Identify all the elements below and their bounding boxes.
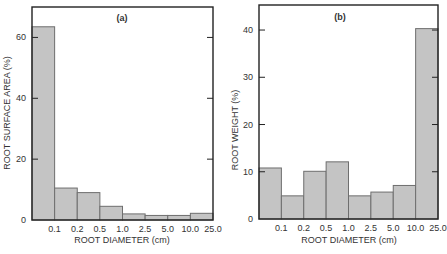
y-tick-label: 20 [243, 120, 253, 130]
x-tick-label: 5.0 [387, 223, 400, 233]
panel-label: (b) [334, 12, 346, 22]
x-tick-label: 2.5 [139, 224, 152, 234]
x-tick-label: 1.0 [342, 223, 355, 233]
bar-series [32, 27, 213, 220]
x-axis-ticks: 0.10.20.51.02.55.010.025.0 [275, 223, 447, 233]
bar [32, 27, 55, 220]
y-tick-label: 40 [243, 25, 253, 35]
x-tick-label: 2.5 [365, 223, 378, 233]
bar [326, 162, 348, 219]
x-tick-label: 0.2 [71, 224, 84, 234]
bar [55, 188, 78, 220]
x-tick-label: 0.2 [297, 223, 310, 233]
x-tick-label: 0.5 [94, 224, 107, 234]
y-tick-label: 60 [16, 32, 26, 42]
y-axis-title: ROOT WEIGHT (%) [230, 90, 240, 171]
bar [281, 196, 303, 219]
x-tick-label: 10.0 [407, 223, 425, 233]
bar [416, 29, 438, 219]
bar [349, 196, 371, 219]
bar [393, 185, 415, 219]
x-axis-ticks: 0.10.20.51.02.55.010.025.0 [48, 224, 221, 234]
x-tick-label: 25.0 [429, 223, 447, 233]
bar [304, 171, 326, 219]
bar [259, 168, 281, 219]
bar [371, 192, 393, 219]
x-tick-label: 0.1 [275, 223, 288, 233]
bar [77, 193, 100, 220]
chart-panel-a: 0204060 0.10.20.51.02.55.010.025.0 (a) R… [2, 7, 222, 245]
y-tick-label: 40 [16, 93, 26, 103]
x-tick-label: 5.0 [161, 224, 174, 234]
y-tick-label: 10 [243, 167, 253, 177]
y-tick-label: 0 [248, 214, 253, 224]
x-axis-title: ROOT DIAMETER (cm) [301, 235, 396, 245]
x-tick-label: 0.5 [320, 223, 333, 233]
x-tick-label: 25.0 [204, 224, 222, 234]
figure: 0204060 0.10.20.51.02.55.010.025.0 (a) R… [0, 0, 447, 254]
x-axis-title: ROOT DIAMETER (cm) [74, 235, 169, 245]
bar [123, 214, 146, 220]
y-tick-label: 20 [16, 154, 26, 164]
bar [190, 213, 213, 220]
y-tick-label: 0 [21, 215, 26, 225]
y-axis-title: ROOT SURFACE AREA (%) [2, 56, 12, 169]
bar-series [259, 29, 438, 219]
y-tick-label: 30 [243, 72, 253, 82]
x-tick-label: 0.1 [48, 224, 61, 234]
chart-panel-b: 010203040 0.10.20.51.02.55.010.025.0 (b)… [230, 5, 447, 245]
bar [100, 206, 123, 220]
x-tick-label: 10.0 [182, 224, 200, 234]
x-tick-label: 1.0 [116, 224, 129, 234]
panel-label: (a) [117, 13, 128, 23]
